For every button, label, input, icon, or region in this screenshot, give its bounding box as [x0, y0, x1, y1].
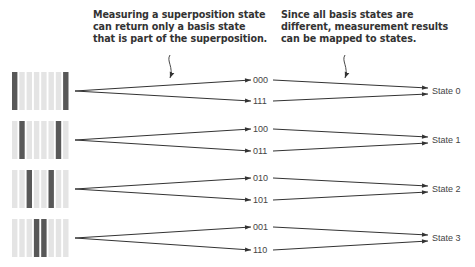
- qubit-register-0: [12, 72, 69, 110]
- light-qubit-bar: [41, 170, 46, 208]
- dark-qubit-bar: [19, 121, 24, 159]
- basis-outcome-label: 110: [253, 245, 267, 255]
- light-qubit-bar: [41, 72, 46, 110]
- callout-arrow-icon: [169, 55, 171, 78]
- state-mapping-arrow: [273, 178, 428, 186]
- measurement-arrows: [75, 80, 428, 250]
- light-qubit-bar: [34, 72, 39, 110]
- superposition-arrow: [75, 91, 251, 101]
- qubit-register-2: [12, 170, 69, 208]
- dark-qubit-bar: [27, 170, 32, 208]
- qubit-register-1: [12, 121, 69, 159]
- basis-outcome-label: 101: [253, 195, 268, 205]
- superposition-arrow: [75, 178, 251, 189]
- state-label: State 2: [432, 184, 461, 194]
- light-qubit-bar: [19, 72, 24, 110]
- state-mapping-arrow: [273, 192, 428, 200]
- light-qubit-bar: [34, 121, 39, 159]
- light-qubit-bar: [12, 170, 17, 208]
- light-qubit-bar: [49, 121, 54, 159]
- state-mapping-arrow: [273, 241, 428, 250]
- state-mapping-arrow: [273, 80, 428, 88]
- light-qubit-bar: [12, 219, 17, 257]
- light-qubit-bar: [27, 72, 32, 110]
- state-mapping-arrow: [273, 129, 428, 137]
- basis-outcome-label: 011: [253, 146, 267, 156]
- light-qubit-bar: [63, 219, 68, 257]
- dark-qubit-bar: [34, 219, 39, 257]
- light-qubit-bar: [19, 170, 24, 208]
- light-qubit-bar: [56, 170, 61, 208]
- light-qubit-bar: [49, 72, 54, 110]
- callout-arrow-icon: [344, 55, 346, 78]
- state-mapping-arrow: [273, 227, 428, 235]
- annotation-superposition: Measuring a superposition state can retu…: [93, 9, 267, 45]
- light-qubit-bar: [56, 72, 61, 110]
- dark-qubit-bar: [63, 72, 68, 110]
- state-mapping-arrow: [273, 94, 428, 101]
- superposition-arrow: [75, 80, 251, 91]
- light-qubit-bar: [12, 121, 17, 159]
- light-qubit-bar: [56, 219, 61, 257]
- state-label: State 3: [432, 233, 461, 243]
- annotation-mapping: Since all basis states are different, me…: [281, 9, 448, 45]
- basis-outcome-label: 100: [253, 124, 268, 134]
- dark-qubit-bar: [12, 72, 17, 110]
- superposition-arrow: [75, 227, 251, 238]
- basis-outcome-label: 111: [253, 96, 267, 106]
- light-qubit-bar: [27, 121, 32, 159]
- superposition-arrow: [75, 238, 251, 250]
- basis-outcome-label: 010: [253, 173, 268, 183]
- state-label: State 0: [432, 86, 461, 96]
- light-qubit-bar: [27, 219, 32, 257]
- state-label: State 1: [432, 135, 461, 145]
- superposition-arrow: [75, 189, 251, 200]
- light-qubit-bar: [63, 121, 68, 159]
- basis-outcome-label: 000: [253, 75, 268, 85]
- light-qubit-bar: [19, 219, 24, 257]
- dark-qubit-bar: [41, 219, 46, 257]
- light-qubit-bar: [34, 170, 39, 208]
- qubit-registers: [12, 72, 69, 257]
- dark-qubit-bar: [56, 121, 61, 159]
- light-qubit-bar: [49, 219, 54, 257]
- state-mapping-arrow: [273, 143, 428, 151]
- dark-qubit-bar: [49, 170, 54, 208]
- superposition-arrow: [75, 140, 251, 151]
- superposition-arrow: [75, 129, 251, 140]
- basis-outcome-label: 001: [253, 222, 268, 232]
- light-qubit-bar: [41, 121, 46, 159]
- light-qubit-bar: [63, 170, 68, 208]
- qubit-register-3: [12, 219, 69, 257]
